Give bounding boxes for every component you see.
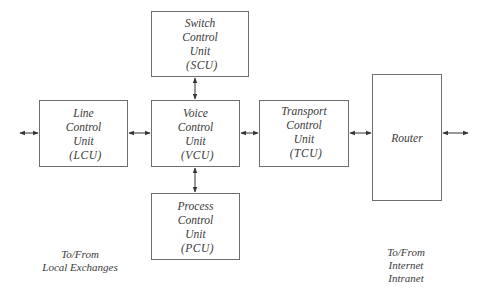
pcu-line-1: Process [178, 199, 214, 213]
tcu-line-1: Transport [281, 104, 326, 118]
lcu-line-1: Line [73, 106, 93, 120]
router-label: Router [391, 131, 422, 145]
right-label-line-3: Intranet [376, 272, 436, 285]
pcu-line-3: Unit [185, 227, 205, 241]
lcu-abbr: (LCU) [65, 148, 102, 162]
router-box: Router [372, 74, 442, 201]
transport-control-unit-box: Transport Control Unit (TCU) [259, 100, 349, 167]
left-external-label: To/From Local Exchanges [40, 248, 120, 274]
pcu-abbr: (PCU) [177, 241, 214, 255]
scu-line-3: Unit [190, 44, 210, 58]
scu-line-1: Switch [185, 16, 216, 30]
vcu-line-1: Voice [183, 106, 208, 120]
right-label-line-1: To/From [376, 246, 436, 259]
voice-control-unit-box: Voice Control Unit (VCU) [151, 100, 240, 167]
tcu-line-2: Control [286, 118, 321, 132]
scu-line-2: Control [182, 30, 217, 44]
right-label-line-2: Internet [376, 259, 436, 272]
tcu-line-3: Unit [294, 132, 314, 146]
pcu-line-2: Control [178, 213, 213, 227]
tcu-abbr: (TCU) [286, 146, 323, 160]
right-external-label: To/From Internet Intranet [376, 246, 436, 285]
scu-abbr: (SCU) [182, 58, 218, 72]
line-control-unit-box: Line Control Unit (LCU) [39, 100, 128, 167]
vcu-abbr: (VCU) [177, 148, 214, 162]
switch-control-unit-box: Switch Control Unit (SCU) [151, 11, 249, 77]
lcu-line-3: Unit [73, 134, 93, 148]
left-label-line-1: To/From [40, 248, 120, 261]
lcu-line-2: Control [66, 120, 101, 134]
vcu-line-3: Unit [185, 134, 205, 148]
vcu-line-2: Control [178, 120, 213, 134]
left-label-line-2: Local Exchanges [40, 261, 120, 274]
process-control-unit-box: Process Control Unit (PCU) [151, 193, 240, 260]
